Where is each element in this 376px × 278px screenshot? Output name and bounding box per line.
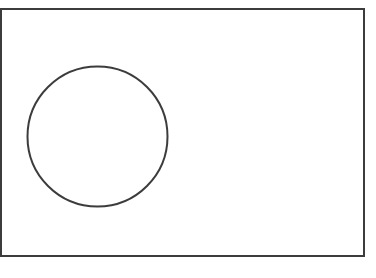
outer-rectangle — [1, 9, 364, 256]
inner-circle — [28, 67, 168, 207]
diagram-svg — [0, 0, 376, 278]
diagram-canvas — [0, 0, 376, 278]
